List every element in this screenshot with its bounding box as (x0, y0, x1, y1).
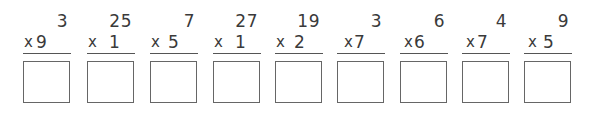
multiplier: 7 (354, 33, 365, 51)
times-sign: x (404, 33, 413, 51)
answer-box[interactable] (275, 61, 322, 103)
multiplier: 7 (477, 33, 488, 51)
answer-line (275, 53, 323, 54)
answer-box[interactable] (213, 61, 260, 103)
multiplicand: 7 (184, 12, 195, 30)
multiplier-row: x 6 (404, 33, 451, 51)
problem-4: 27 x 1 (212, 0, 272, 120)
answer-box[interactable] (337, 61, 384, 103)
multiplier-row: x 1 (214, 33, 264, 51)
answer-box[interactable] (87, 61, 134, 103)
times-sign: x (88, 33, 97, 51)
times-sign: x (24, 33, 33, 51)
answer-box[interactable] (462, 61, 509, 103)
problem-1: 3 x 9 (22, 0, 82, 120)
multiplicand: 6 (434, 12, 445, 30)
multiplicand: 4 (496, 12, 507, 30)
multiplier-row: x 7 (466, 33, 513, 51)
problem-6: 3 x 7 (336, 0, 396, 120)
multiplier-row: x 7 (344, 33, 388, 51)
answer-line (337, 53, 385, 54)
problem-2: 25 x 1 (86, 0, 146, 120)
answer-box[interactable] (150, 61, 197, 103)
times-sign: x (276, 33, 285, 51)
multiplicand: 3 (371, 12, 382, 30)
answer-line (23, 53, 71, 54)
answer-box[interactable] (23, 61, 70, 103)
times-sign: x (466, 33, 475, 51)
answer-line (87, 53, 135, 54)
multiplier: 1 (235, 33, 246, 51)
times-sign: x (528, 33, 537, 51)
multiplicand: 19 (297, 12, 320, 30)
multiplier: 5 (543, 33, 554, 51)
times-sign: x (151, 33, 160, 51)
multiplier: 1 (109, 33, 120, 51)
problem-8: 4 x 7 (461, 0, 521, 120)
problem-7: 6 x 6 (399, 0, 459, 120)
problem-3: 7 x 5 (149, 0, 209, 120)
answer-line (213, 53, 261, 54)
multiplier-row: x 5 (151, 33, 201, 51)
answer-line (150, 53, 198, 54)
multiplier-row: x 9 (24, 33, 74, 51)
times-sign: x (214, 33, 223, 51)
multiplier-row: x 5 (528, 33, 575, 51)
multiplier: 9 (36, 33, 47, 51)
answer-line (462, 53, 510, 54)
answer-line (524, 53, 572, 54)
multiplier-row: x 2 (276, 33, 326, 51)
problem-5: 19 x 2 (274, 0, 334, 120)
answer-box[interactable] (400, 61, 447, 103)
multiplier: 2 (294, 33, 305, 51)
multiplier: 5 (168, 33, 179, 51)
multiplier-row: x 1 (88, 33, 138, 51)
answer-line (400, 53, 448, 54)
multiplicand: 9 (558, 12, 569, 30)
problem-9: 9 x 5 (523, 0, 583, 120)
multiplicand: 25 (109, 12, 132, 30)
times-sign: x (344, 33, 353, 51)
multiplier: 6 (414, 33, 425, 51)
multiplicand: 27 (235, 12, 258, 30)
answer-box[interactable] (524, 61, 571, 103)
multiplicand: 3 (57, 12, 68, 30)
